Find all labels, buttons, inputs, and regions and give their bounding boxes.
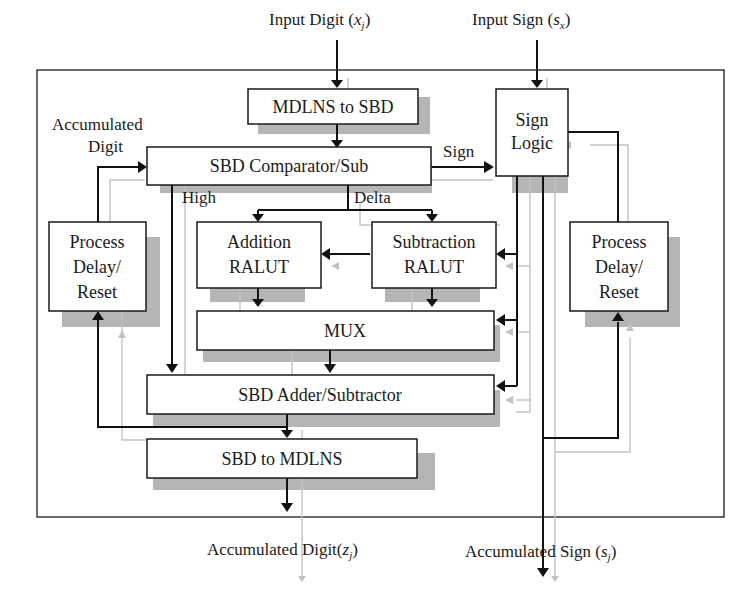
label-accumulated-digit-output: Accumulated Digit(zj) <box>207 540 358 561</box>
svg-text:RALUT: RALUT <box>404 257 464 277</box>
block-process-delay-left: Process Delay/ Reset <box>49 222 146 311</box>
arrow-down-icon <box>281 503 293 512</box>
svg-text:Reset: Reset <box>77 282 117 302</box>
arrow-down-icon <box>166 364 178 373</box>
arrow-right-icon <box>484 161 494 173</box>
arrow-left-icon <box>496 314 505 326</box>
svg-text:SBD to MDLNS: SBD to MDLNS <box>221 449 342 469</box>
block-addition-ralut: Addition RALUT <box>197 222 321 288</box>
svg-text:Logic: Logic <box>511 133 553 153</box>
label-high: High <box>182 188 217 207</box>
label-input-digit: Input Digit (xj) <box>269 10 370 31</box>
arrow-down-icon <box>281 430 293 438</box>
svg-text:Process: Process <box>592 232 647 252</box>
block-diagram: MDLNS to SBD Sign Logic SBD Comparator/S… <box>0 0 730 595</box>
svg-text:Sign: Sign <box>515 110 548 130</box>
svg-text:Reset: Reset <box>599 282 639 302</box>
block-sbd-comparator: SBD Comparator/Sub <box>147 147 431 185</box>
arrow-down-icon <box>252 299 264 307</box>
label-accumulated-digit-2: Digit <box>88 137 123 156</box>
arrow-down-icon <box>426 299 438 307</box>
arrow-down-icon <box>252 214 264 222</box>
arrow-down-icon <box>531 80 543 88</box>
svg-text:Addition: Addition <box>227 232 291 252</box>
label-accumulated-digit: Accumulated <box>52 115 143 134</box>
block-mux: MUX <box>197 311 494 350</box>
block-process-delay-right: Process Delay/ Reset <box>570 222 668 311</box>
svg-text:SBD Adder/Subtractor: SBD Adder/Subtractor <box>238 385 402 405</box>
arrow-down-icon <box>426 214 438 222</box>
svg-text:Delay/: Delay/ <box>73 257 121 277</box>
label-accumulated-sign-output: Accumulated Sign (sj) <box>465 542 616 563</box>
svg-text:MDLNS to SBD: MDLNS to SBD <box>272 97 393 117</box>
block-sbd-adder-subtractor: SBD Adder/Subtractor <box>147 375 494 414</box>
svg-text:RALUT: RALUT <box>229 257 289 277</box>
svg-text:Process: Process <box>70 232 125 252</box>
block-sbd-to-mdlns: SBD to MDLNS <box>147 439 417 478</box>
label-input-sign: Input Sign (sx) <box>472 10 570 31</box>
arrow-right-icon <box>138 161 147 173</box>
arrow-left-icon <box>321 248 330 260</box>
label-sign: Sign <box>443 142 475 161</box>
svg-text:Subtraction: Subtraction <box>393 232 476 252</box>
arrow-down-icon <box>331 80 343 88</box>
block-sign-logic: Sign Logic <box>496 89 568 176</box>
block-mdlns-to-sbd: MDLNS to SBD <box>248 89 418 124</box>
svg-text:Delay/: Delay/ <box>595 257 643 277</box>
label-delta: Delta <box>354 188 391 207</box>
arrow-down-icon <box>324 364 336 373</box>
arrow-down-icon <box>537 568 549 577</box>
svg-text:MUX: MUX <box>324 321 366 341</box>
arrow-left-icon <box>496 248 505 260</box>
svg-text:SBD Comparator/Sub: SBD Comparator/Sub <box>210 156 369 176</box>
block-subtraction-ralut: Subtraction RALUT <box>372 222 496 288</box>
